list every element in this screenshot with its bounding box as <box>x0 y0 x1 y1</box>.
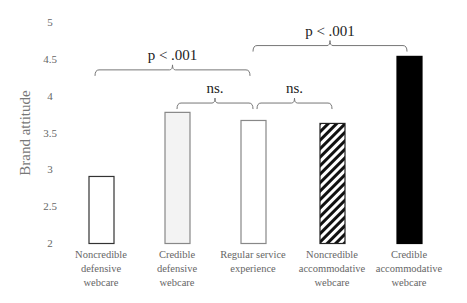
y-tick-label: 3 <box>47 163 53 175</box>
significance-label: p < .001 <box>148 47 198 63</box>
bar <box>241 120 266 243</box>
significance-bracket: ns. <box>257 80 332 109</box>
significance-bracket: p < .001 <box>95 47 250 76</box>
y-tick-label: 3.5 <box>43 127 57 139</box>
y-ticks: 22.533.544.55 <box>43 16 57 249</box>
x-tick-label: Noncredibledefensivewebcare <box>75 249 127 288</box>
y-tick-label: 4.5 <box>43 53 57 65</box>
x-tick-label: Regular serviceexperience <box>220 249 286 274</box>
significance-label: p < .001 <box>305 23 355 39</box>
significance-label: ns. <box>286 80 303 96</box>
bars <box>89 56 422 243</box>
bar <box>320 123 345 243</box>
bar <box>397 56 422 243</box>
significance-label: ns. <box>206 80 223 96</box>
x-tick-label: Credibleaccommodativewebcare <box>376 249 443 288</box>
bar <box>89 176 114 243</box>
y-tick-label: 5 <box>47 16 53 28</box>
x-tick-label: Credibledefensivewebcare <box>157 249 198 288</box>
bar <box>165 112 190 243</box>
y-tick-label: 2 <box>47 237 53 249</box>
significance-bracket: ns. <box>177 80 253 109</box>
significance-bracket: p < .001 <box>253 23 407 52</box>
y-tick-label: 4 <box>47 90 53 102</box>
significance-brackets: p < .001ns.p < .001ns. <box>95 23 407 109</box>
y-axis-label: Brand attitude <box>17 90 33 176</box>
bar-chart: Brand attitude 22.533.544.55 p < .001ns.… <box>0 0 467 303</box>
x-tick-labels: NoncredibledefensivewebcareCredibledefen… <box>75 249 443 288</box>
x-tick-label: Noncredibleaccommodativewebcare <box>299 249 366 288</box>
y-tick-label: 2.5 <box>43 200 57 212</box>
